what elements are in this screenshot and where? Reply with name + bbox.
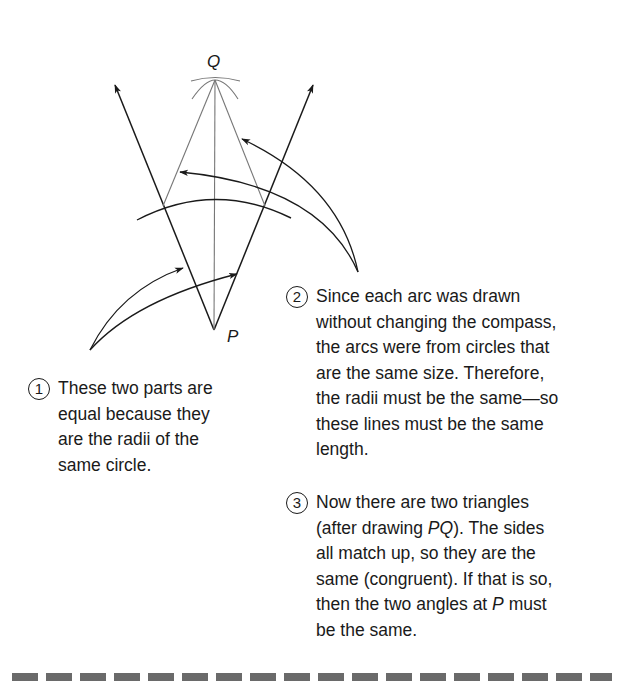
note-1-text: These two parts are equal because they a… [58, 376, 213, 478]
note-number-2: 2 [286, 286, 308, 308]
label-p: P [227, 327, 239, 346]
bisector-pq [214, 80, 215, 330]
note-number-3: 3 [286, 492, 308, 514]
pointer-1b [90, 274, 237, 350]
left-construction-line [163, 80, 215, 206]
cropped-figure-caption [12, 673, 612, 681]
note-1: 1 These two parts are equal because they… [28, 376, 213, 478]
label-q: Q [207, 52, 220, 71]
pointer-1a [90, 268, 183, 350]
pointer-2a [180, 172, 358, 272]
note-2: 2 Since each arc was drawn without chang… [286, 284, 558, 463]
note-2-text: Since each arc was drawn without changin… [316, 284, 558, 463]
note-3: 3 Now there are two triangles (after dra… [286, 490, 552, 643]
note-3-text: Now there are two triangles (after drawi… [316, 490, 552, 643]
note-number-1: 1 [28, 378, 50, 400]
